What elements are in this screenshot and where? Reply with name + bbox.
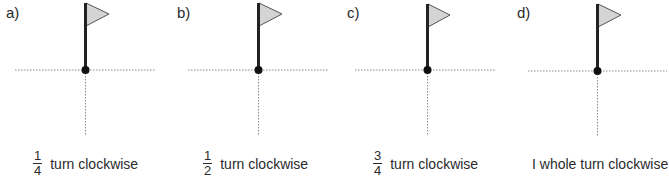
fraction-denominator: 2 — [204, 164, 211, 177]
flag-turn-diagram — [500, 0, 669, 140]
panel-b: b) 1 2 turn clockwise — [170, 0, 340, 179]
flag-icon — [428, 4, 450, 27]
fraction-denominator: 4 — [34, 164, 41, 177]
pivot-dot — [594, 67, 602, 75]
caption-text: turn clockwise — [390, 155, 478, 171]
fraction: 3 4 — [373, 150, 382, 177]
fraction-numerator: 1 — [203, 150, 212, 164]
panel-a: a) 1 4 turn clockwise — [0, 0, 170, 179]
panel-d: d) I whole turn clockwise — [500, 0, 669, 179]
turn-instruction: 3 4 turn clockwise — [373, 148, 478, 178]
fraction: 1 2 — [203, 150, 212, 177]
flag-icon — [86, 3, 109, 26]
pivot-dot — [424, 66, 432, 74]
flag-icon — [259, 3, 282, 26]
turn-instruction: 1 4 turn clockwise — [33, 148, 138, 178]
turn-instruction: I whole turn clockwise — [532, 148, 668, 178]
pivot-dot — [255, 66, 263, 74]
pivot-dot — [82, 66, 90, 74]
caption-text: turn clockwise — [220, 155, 308, 171]
fraction-denominator: 4 — [374, 164, 381, 177]
panel-c: c) 3 4 turn clockwise — [340, 0, 510, 179]
flag-icon — [598, 4, 621, 27]
flag-turn-diagram — [0, 0, 170, 140]
fraction: 1 4 — [33, 150, 42, 177]
fraction-numerator: 1 — [33, 150, 42, 164]
flag-turn-diagram — [170, 0, 340, 140]
flag-turn-diagram — [340, 0, 510, 140]
caption-text: turn clockwise — [50, 155, 138, 171]
fraction-numerator: 3 — [373, 150, 382, 164]
turn-instruction: 1 2 turn clockwise — [203, 148, 308, 178]
caption-text: I whole turn clockwise — [532, 155, 668, 171]
